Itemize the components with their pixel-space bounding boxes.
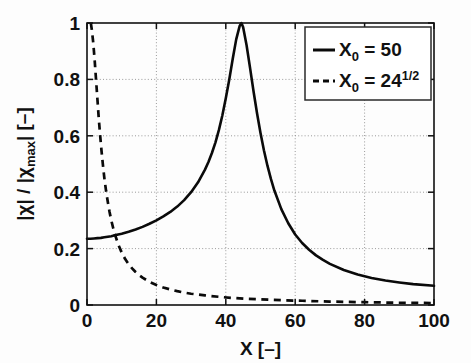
- y-tick-label: 0: [69, 295, 80, 316]
- y-tick-label: 0.4: [54, 182, 81, 203]
- legend-entry-0-rest: = 50: [359, 39, 402, 60]
- legend-entry-1-superscript: 1/2: [402, 69, 419, 83]
- x-tick-labels-group: 020406080100: [82, 310, 450, 331]
- y-tick-label: 0.6: [54, 126, 80, 147]
- legend-entry-0-subscript: 0: [352, 49, 359, 64]
- x-axis-label: X [–]: [240, 338, 281, 359]
- y-axis-label-tail: | [–]: [13, 107, 34, 141]
- resonance-amplitude-chart: 020406080100 00.20.40.60.81 X [–] |χ| / …: [0, 0, 471, 363]
- legend-entry-0-main: X: [339, 39, 352, 60]
- y-tick-labels-group: 00.20.40.60.81: [54, 13, 81, 316]
- svg-text:|χ| / |χmax| [–]: |χ| / |χmax| [–]: [13, 107, 38, 221]
- x-tick-label: 40: [215, 310, 236, 331]
- legend-entry-1-subscript: 0: [352, 80, 359, 95]
- y-tick-label: 0.8: [54, 69, 80, 90]
- y-tick-label: 0.2: [54, 239, 80, 260]
- x-tick-label: 0: [82, 310, 93, 331]
- x-tick-label: 100: [418, 310, 450, 331]
- y-axis-label-subscript: max: [23, 140, 38, 167]
- legend-entry-1-rest: = 24: [359, 70, 402, 91]
- chart-legend[interactable]: X0 = 50 X0 = 241/2: [305, 27, 431, 100]
- x-tick-label: 60: [285, 310, 306, 331]
- y-axis-label-main: |χ| / |χ: [13, 167, 34, 221]
- y-tick-label: 1: [69, 13, 80, 34]
- x-tick-label: 20: [146, 310, 167, 331]
- x-tick-label: 80: [354, 310, 375, 331]
- legend-entry-1-main: X: [339, 70, 352, 91]
- figure-container: 020406080100 00.20.40.60.81 X [–] |χ| / …: [0, 0, 471, 363]
- y-axis-label: |χ| / |χmax| [–]: [13, 107, 38, 221]
